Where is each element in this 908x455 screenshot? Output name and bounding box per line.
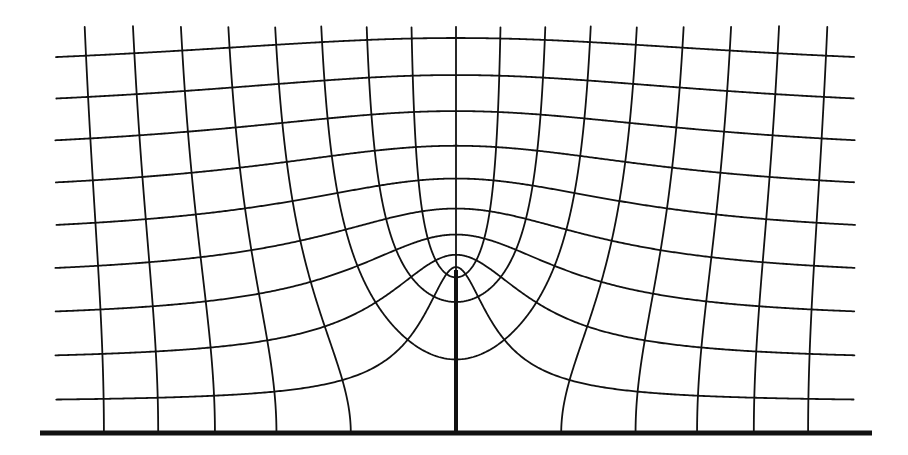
field-line [275,27,351,433]
field-line [412,27,456,277]
field-line [85,27,104,433]
field-line [133,26,158,433]
field-line [181,27,215,433]
equipotential-line [55,209,854,268]
field-line [754,26,779,433]
equipotential-line [55,111,854,140]
field-line [561,27,637,433]
equipotential-line [56,75,853,98]
field-line [456,27,545,302]
conformal-grid-diagram [0,0,908,455]
equipotential-line [56,38,854,57]
field-line [808,27,827,433]
field-line [697,27,731,433]
field-line [367,27,456,302]
field-line [456,27,500,277]
equipotential-line [56,146,854,183]
